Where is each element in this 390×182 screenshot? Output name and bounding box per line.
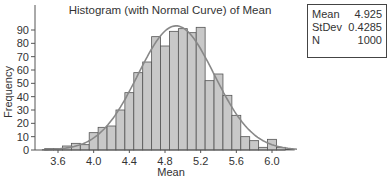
summary-stats-box: Mean 4.925 StDev 0.4285 N 1000 [307, 4, 387, 58]
histogram-chart: Histogram (with Normal Curve) of Mean Fr… [0, 0, 300, 182]
histogram-bar [169, 31, 178, 150]
stats-value: 1000 [358, 34, 382, 47]
y-tick-label: 90 [17, 24, 29, 36]
y-tick-label: 80 [17, 37, 29, 49]
histogram-bar [232, 115, 241, 150]
x-axis-label: Mean [157, 166, 185, 178]
histogram-bar [116, 110, 125, 150]
y-tick-label: 50 [17, 77, 29, 89]
histogram-bar [250, 141, 259, 150]
y-tick-label: 10 [17, 131, 29, 143]
histogram-bar [80, 145, 89, 150]
histogram-bar [214, 74, 223, 150]
x-tick-label: 6.0 [264, 155, 279, 167]
histogram-bar [187, 33, 196, 150]
x-axis: 3.64.04.44.85.25.66.0 [35, 150, 285, 167]
chart-title: Histogram (with Normal Curve) of Mean [69, 4, 272, 16]
histogram-bar [196, 27, 205, 150]
stats-row-stdev: StDev 0.4285 [312, 21, 382, 34]
stats-row-mean: Mean 4.925 [312, 8, 382, 21]
y-axis: 0102030405060708090 [17, 5, 35, 156]
stats-label: N [312, 34, 320, 47]
x-tick-label: 4.0 [86, 155, 101, 167]
x-tick-label: 4.4 [122, 155, 137, 167]
histogram-bars [45, 27, 295, 150]
y-tick-label: 70 [17, 51, 29, 63]
y-tick-label: 40 [17, 91, 29, 103]
histogram-bar [241, 137, 250, 150]
stats-value: 0.4285 [348, 21, 382, 34]
histogram-bar [161, 46, 170, 150]
y-tick-label: 0 [23, 144, 29, 156]
histogram-bar [178, 29, 187, 150]
x-tick-label: 3.6 [50, 155, 65, 167]
histogram-bar [134, 73, 143, 150]
y-tick-label: 30 [17, 104, 29, 116]
stats-row-n: N 1000 [312, 34, 382, 47]
x-tick-label: 4.8 [157, 155, 172, 167]
x-tick-label: 5.6 [229, 155, 244, 167]
stats-label: Mean [312, 8, 340, 21]
histogram-bar [143, 62, 152, 150]
histogram-bar [125, 93, 134, 150]
stats-value: 4.925 [354, 8, 382, 21]
histogram-bar [152, 37, 161, 150]
y-tick-label: 60 [17, 64, 29, 76]
y-tick-label: 20 [17, 117, 29, 129]
x-tick-label: 5.2 [193, 155, 208, 167]
histogram-bar [107, 126, 116, 150]
stats-label: StDev [312, 21, 342, 34]
histogram-bar [205, 81, 214, 150]
y-axis-label: Frequency [2, 66, 14, 118]
